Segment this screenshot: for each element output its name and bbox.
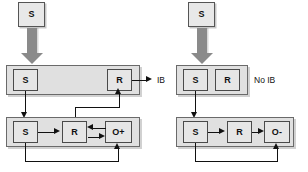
bottom-loop-arrowhead xyxy=(273,143,279,149)
o-to-r-arrowhead xyxy=(87,124,93,130)
bottom-node-r: R xyxy=(227,121,252,143)
input-node-s: S xyxy=(18,2,45,27)
r-feedback-arrowhead xyxy=(115,88,121,94)
s-down-line xyxy=(195,91,196,113)
middle-node-r: R xyxy=(215,69,240,91)
s-to-r-line xyxy=(38,132,55,133)
output-arrowhead xyxy=(146,76,152,82)
bottom-loop-down xyxy=(195,143,196,162)
panel-no-ib: S S R No IB S R O- xyxy=(154,0,308,172)
diagram-root: S S R IB S R O+ xyxy=(0,0,308,172)
input-fat-arrow xyxy=(191,28,213,64)
s-to-r-arrowhead xyxy=(54,128,60,134)
r-feedback-riser xyxy=(75,107,76,117)
middle-node-s: S xyxy=(13,69,38,91)
s-down-line xyxy=(25,91,26,113)
bottom-loop-up xyxy=(277,148,278,162)
bottom-loop-up xyxy=(118,148,119,162)
r-feedback-up xyxy=(119,93,120,108)
bottom-node-o-minus: O- xyxy=(264,121,290,143)
bottom-loop-run xyxy=(195,161,278,162)
input-node-s: S xyxy=(188,2,215,27)
bottom-loop-arrowhead xyxy=(114,143,120,149)
panel-ib: S S R IB S R O+ xyxy=(0,0,154,172)
r-to-o-arrowhead xyxy=(258,128,264,134)
o-to-r-line xyxy=(93,128,106,129)
output-label-no-ib: No IB xyxy=(254,76,275,85)
input-fat-arrow xyxy=(21,28,43,64)
output-line xyxy=(132,80,147,81)
bottom-node-r: R xyxy=(62,121,87,143)
bottom-node-s: S xyxy=(13,121,38,143)
r-feedback-run xyxy=(75,107,120,108)
r-to-o-arrowhead xyxy=(99,133,105,139)
bottom-loop-run xyxy=(25,161,119,162)
bottom-loop-down xyxy=(25,143,26,162)
bottom-node-o-plus: O+ xyxy=(105,121,132,143)
middle-node-s: S xyxy=(183,69,208,91)
bottom-node-s: S xyxy=(183,121,208,143)
s-to-r-arrowhead xyxy=(219,128,225,134)
